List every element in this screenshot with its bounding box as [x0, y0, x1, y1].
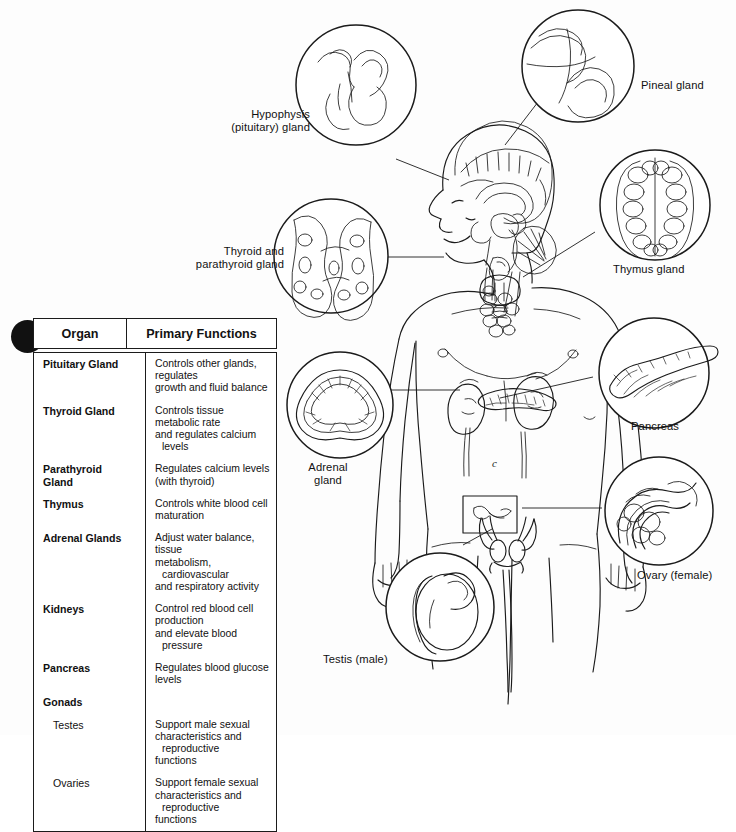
- function-line: maturation: [155, 510, 270, 522]
- table-cell-organ: Adrenal Glands: [34, 527, 146, 598]
- table-row: TestesSupport male sexualcharacteristics…: [34, 714, 276, 773]
- callout-thyroid-parathyroid: Thyroid and parathyroid gland: [178, 245, 284, 272]
- organ-function-table: Organ Primary Functions Pituitary GlandC…: [33, 318, 277, 832]
- table-cell-organ: Thymus: [34, 493, 146, 527]
- table-row: Parathyroid GlandRegulates calcium level…: [34, 458, 276, 492]
- table-cell-functions: Control red blood cell productionand ele…: [146, 598, 277, 657]
- table-cell-functions: Controls white blood cellmaturation: [146, 493, 277, 527]
- function-line: Control red blood cell production: [155, 603, 253, 626]
- table-cell-organ: Testes: [34, 714, 146, 773]
- inset-pineal: [522, 10, 634, 122]
- function-line: (with thyroid): [155, 476, 270, 488]
- callout-pineal: Pineal gland: [641, 79, 736, 92]
- table-cell-organ: Thyroid Gland: [34, 400, 146, 459]
- function-line: metabolism, cardiovascular: [155, 557, 270, 581]
- inset-hypophysis: [296, 25, 416, 145]
- table-cell-organ: Kidneys: [34, 598, 146, 657]
- function-line: growth and fluid balance: [155, 382, 270, 394]
- function-line: characteristics and reproductive: [155, 731, 270, 755]
- function-line: Controls white blood cell: [155, 498, 268, 509]
- callout-thymus: Thymus gland: [613, 263, 713, 276]
- function-line: characteristics and reproductive: [155, 790, 270, 814]
- function-line: functions: [155, 755, 270, 767]
- function-line: Support female sexual: [155, 777, 258, 788]
- table-cell-functions: Adjust water balance, tissuemetabolism, …: [146, 527, 277, 598]
- table-cell-organ: Pituitary Gland: [34, 353, 146, 400]
- inset-thymus: [600, 150, 710, 260]
- table-row: PancreasRegulates blood glucose levels: [34, 657, 276, 691]
- table-row: Gonads: [34, 691, 276, 713]
- inset-thyroid-parathyroid: [274, 199, 388, 320]
- table-header-functions: Primary Functions: [126, 319, 276, 348]
- table-row: Pituitary GlandControls other glands, re…: [34, 353, 276, 400]
- table-cell-functions: Controls tissue metabolic rateand regula…: [146, 400, 277, 459]
- inset-testis: [386, 553, 494, 661]
- function-line: and regulates calcium levels: [155, 429, 270, 453]
- table-header-organ: Organ: [34, 327, 126, 341]
- function-line: functions: [155, 814, 270, 826]
- table-cell-functions: Support male sexualcharacteristics and r…: [146, 714, 277, 773]
- callout-testis: Testis (male): [323, 653, 415, 666]
- table-body: Pituitary GlandControls other glands, re…: [33, 352, 277, 832]
- table-row: Thyroid GlandControls tissue metabolic r…: [34, 400, 276, 459]
- inset-adrenal: [287, 352, 393, 458]
- table-cell-organ: Gonads: [34, 691, 146, 713]
- table-row: OvariesSupport female sexualcharacterist…: [34, 772, 276, 831]
- function-line: Regulates calcium levels: [155, 463, 269, 474]
- function-line: Controls other glands, regulates: [155, 358, 257, 381]
- function-line: and elevate blood pressure: [155, 628, 270, 652]
- table-row: Adrenal GlandsAdjust water balance, tiss…: [34, 527, 276, 598]
- table-cell-functions: Regulates calcium levels(with thyroid): [146, 458, 277, 492]
- callout-pancreas: Pancreas: [631, 420, 721, 433]
- table-cell-organ: Pancreas: [34, 657, 146, 691]
- callout-ovary: Ovary (female): [637, 569, 736, 582]
- function-line: Support male sexual: [155, 719, 250, 730]
- callout-hypophysis: Hypophysis (pituitary) gland: [214, 108, 310, 135]
- leader-lines: [368, 102, 602, 545]
- inset-pancreas: [599, 318, 718, 428]
- table-cell-functions: Controls other glands, regulatesgrowth a…: [146, 353, 277, 400]
- function-line: Adjust water balance, tissue: [155, 532, 254, 555]
- table-cell-organ: Ovaries: [34, 772, 146, 831]
- table-row: ThymusControls white blood cellmaturatio…: [34, 493, 276, 527]
- table-cell-functions: Regulates blood glucose levels: [146, 657, 277, 691]
- table-row: KidneysControl red blood cell production…: [34, 598, 276, 657]
- table-cell-organ: Parathyroid Gland: [34, 458, 146, 492]
- inset-ovary: [605, 457, 713, 565]
- callout-adrenal: Adrenal gland: [295, 461, 361, 488]
- function-line: Controls tissue metabolic rate: [155, 405, 224, 428]
- table-cell-functions: [146, 691, 277, 713]
- table-header-row: Organ Primary Functions: [33, 318, 277, 349]
- function-line: Regulates blood glucose levels: [155, 662, 269, 685]
- function-line: and respiratory activity: [155, 581, 270, 593]
- svg-text:c: c: [492, 457, 497, 469]
- table-cell-functions: Support female sexualcharacteristics and…: [146, 772, 277, 831]
